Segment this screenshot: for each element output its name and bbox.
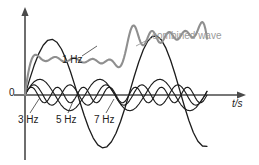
y-axis-arrow-icon (21, 7, 28, 16)
label-combined-wave: combined wave (152, 31, 221, 41)
label-3hz: 3 Hz (18, 115, 39, 125)
waveform-figure: 0 1 Hz 3 Hz 5 Hz 7 Hz combined wave t/s (0, 0, 259, 165)
waveform-canvas (0, 0, 259, 165)
leader-line-3hz (30, 99, 39, 113)
label-5hz: 5 Hz (56, 115, 77, 125)
leader-line-1hz (82, 46, 97, 56)
label-1hz: 1 Hz (62, 55, 83, 65)
y-axis-origin-label: 0 (9, 88, 15, 98)
x-axis-label: t/s (232, 99, 243, 109)
leader-line-7hz (106, 99, 114, 113)
label-7hz: 7 Hz (94, 115, 115, 125)
